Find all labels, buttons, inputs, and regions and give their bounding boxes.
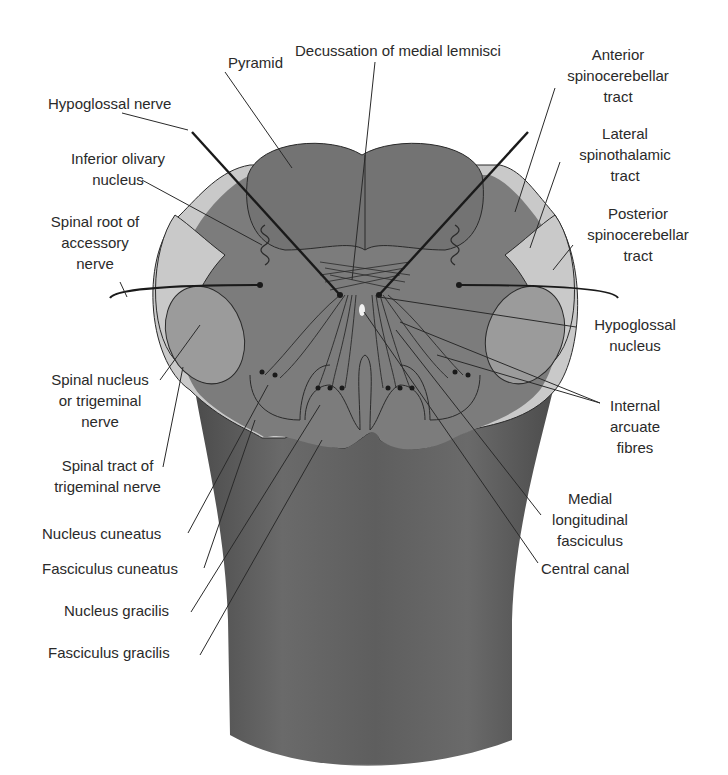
label-line: Spinal root of [40,211,150,232]
label-line: Anterior [548,44,688,65]
label-line: tract [560,165,690,186]
label-line: Internal [595,395,675,416]
label-fasciculus-gracilis: Fasciculus gracilis [48,642,170,663]
label-line: fasciculus [540,530,640,551]
label-line: spinocerebellar [568,224,708,245]
label-line: fibres [595,437,675,458]
label-line: Nucleus cuneatus [42,523,161,544]
label-line: Hypoglossal nerve [48,93,171,114]
label-line: Inferior olivary [48,148,188,169]
label-line: Hypoglossal [580,314,690,335]
label-line: nucleus [48,169,188,190]
label-nucleus-cuneatus: Nucleus cuneatus [42,523,161,544]
label-line: Fasciculus cuneatus [42,558,178,579]
label-line: or trigeminal [40,390,160,411]
label-line: tract [568,245,708,266]
label-hypoglossal-nerve: Hypoglossal nerve [48,93,171,114]
label-internal-arcuate-fibres: Internal arcuate fibres [595,395,675,458]
label-lateral-spinothalamic: Lateral spinothalamic tract [560,123,690,186]
label-decussation-medial-lemnisci: Decussation of medial lemnisci [295,40,501,61]
label-medial-longitudinal-fasciculus: Medial longitudinal fasciculus [540,488,640,551]
label-line: Spinal tract of [40,455,175,476]
label-line: nerve [40,253,150,274]
label-anterior-spinocerebellar: Anterior spinocerebellar tract [548,44,688,107]
label-spinal-root-accessory: Spinal root of accessory nerve [40,211,150,274]
label-line: nerve [40,411,160,432]
label-hypoglossal-nucleus: Hypoglossal nucleus [580,314,690,356]
label-line: nucleus [580,335,690,356]
label-posterior-spinocerebellar: Posterior spinocerebellar tract [568,203,708,266]
label-line: longitudinal [540,509,640,530]
label-spinal-tract-trigeminal: Spinal tract of trigeminal nerve [40,455,175,497]
label-line: Pyramid [228,52,283,73]
label-line: Lateral [560,123,690,144]
label-pyramid: Pyramid [228,52,283,73]
label-line: Decussation of medial lemnisci [295,40,501,61]
label-line: Posterior [568,203,708,224]
label-line: Central canal [541,558,629,579]
label-line: Spinal nucleus [40,369,160,390]
label-line: Medial [540,488,640,509]
label-line: Nucleus gracilis [64,600,169,621]
label-fasciculus-cuneatus: Fasciculus cuneatus [42,558,178,579]
label-line: spinocerebellar [548,65,688,86]
label-nucleus-gracilis: Nucleus gracilis [64,600,169,621]
label-line: spinothalamic [560,144,690,165]
label-line: arcuate [595,416,675,437]
label-spinal-nucleus-trigeminal: Spinal nucleus or trigeminal nerve [40,369,160,432]
label-inferior-olivary-nucleus: Inferior olivary nucleus [48,148,188,190]
label-line: Fasciculus gracilis [48,642,170,663]
label-line: tract [548,86,688,107]
label-line: trigeminal nerve [40,476,175,497]
label-line: accessory [40,232,150,253]
label-central-canal: Central canal [541,558,629,579]
